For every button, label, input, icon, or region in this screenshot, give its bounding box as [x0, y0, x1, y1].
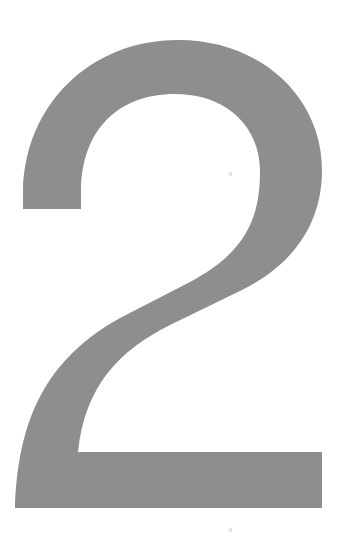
scan-speck [229, 528, 232, 532]
numeral-two-shape [15, 40, 322, 508]
image-canvas: 2 [0, 0, 356, 541]
numeral-two-glyph [0, 0, 356, 541]
scan-speck [229, 172, 232, 176]
